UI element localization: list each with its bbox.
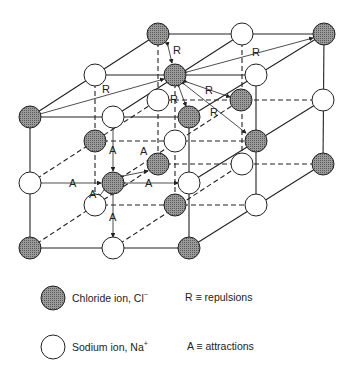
chloride-ion xyxy=(164,194,186,216)
attraction-label: A xyxy=(140,145,148,157)
sodium-ion xyxy=(102,106,124,128)
sodium-ion xyxy=(19,172,41,194)
chloride-ion xyxy=(313,23,335,45)
attraction-label: A xyxy=(109,211,117,223)
chloride-ion xyxy=(102,172,124,194)
repulsion-label: R xyxy=(170,93,178,105)
chloride-ion xyxy=(178,106,200,128)
chloride-ion xyxy=(147,153,169,175)
repulsion-label: R xyxy=(173,44,181,56)
sodium-ion xyxy=(312,89,334,111)
chloride-ion xyxy=(178,237,200,259)
chloride-ion xyxy=(164,64,186,86)
legend-sodium: Sodium ion, Na+ xyxy=(72,340,148,353)
attraction-label: A xyxy=(109,144,117,156)
chloride-ion xyxy=(84,130,106,152)
attraction-label: A xyxy=(69,177,77,189)
legend-chloride: Chloride ion, Cl− xyxy=(72,291,148,304)
legend-repulsions: R ≡ repulsions xyxy=(185,291,252,303)
sodium-ion xyxy=(164,130,186,152)
repulsion-label: R xyxy=(252,46,260,58)
chloride-ion xyxy=(245,130,267,152)
nacl-lattice-diagram: R R R R R R A A A A A A xyxy=(0,0,349,376)
chloride-legend-icon xyxy=(41,286,65,310)
sodium-ion xyxy=(231,153,253,175)
repulsion-label: R xyxy=(102,83,110,95)
sodium-ion xyxy=(102,237,124,259)
attraction-label: A xyxy=(145,177,153,189)
repulsion-label: R xyxy=(210,106,218,118)
sodium-ion xyxy=(245,64,267,86)
sodium-ion xyxy=(245,194,267,216)
sodium-legend-icon xyxy=(41,335,65,359)
chloride-ion xyxy=(19,237,41,259)
legend-attractions: A ≡ attractions xyxy=(187,340,254,352)
attraction-label: A xyxy=(89,188,97,200)
repulsion-label: R xyxy=(205,84,213,96)
sodium-ion xyxy=(178,172,200,194)
chloride-ion xyxy=(230,89,252,111)
chloride-ion xyxy=(19,106,41,128)
sodium-ion xyxy=(147,89,169,111)
chloride-ion xyxy=(312,153,334,175)
sodium-ion xyxy=(231,23,253,45)
chloride-ion xyxy=(147,23,169,45)
